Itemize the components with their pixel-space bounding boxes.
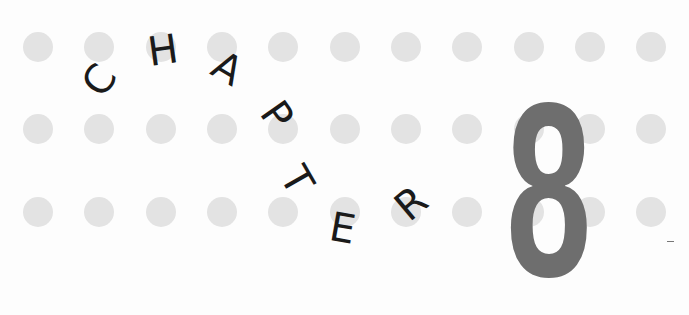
grid-dot [330, 114, 360, 144]
grid-dot [636, 114, 666, 144]
grid-dot [452, 114, 482, 144]
grid-dot [84, 114, 114, 144]
grid-dot [207, 197, 237, 227]
grid-dot [636, 197, 666, 227]
grid-dot [146, 114, 176, 144]
chapter-letter-h: H [145, 28, 180, 72]
grid-dot [452, 32, 482, 62]
grid-dot [146, 197, 176, 227]
chapter-letter-e: E [327, 206, 359, 250]
grid-dot [84, 197, 114, 227]
grid-dot [391, 32, 421, 62]
margin-mark [667, 241, 674, 242]
grid-dot [268, 32, 298, 62]
chapter-letter-t: T [274, 159, 321, 200]
chapter-number: 8 [506, 66, 590, 314]
grid-dot [207, 114, 237, 144]
chapter-letter-c: C [75, 57, 124, 103]
grid-dot [23, 114, 53, 144]
grid-dot [452, 197, 482, 227]
grid-dot [23, 197, 53, 227]
grid-dot [391, 114, 421, 144]
grid-dot [330, 32, 360, 62]
grid-dot [636, 32, 666, 62]
grid-dot [23, 32, 53, 62]
